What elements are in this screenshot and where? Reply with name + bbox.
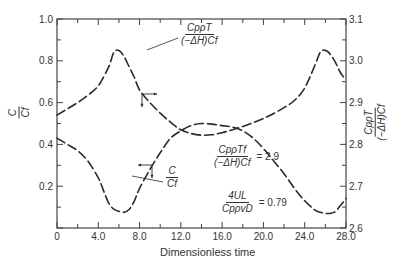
x-tick-label: 4.0 (91, 231, 105, 242)
y-left-tick-label: 0.4 (39, 139, 53, 150)
x-axis-label: Dimensionless time (160, 246, 255, 258)
y-left-tick-label: 0.2 (39, 181, 53, 192)
x-tick-label: 8.0 (133, 231, 147, 242)
arrow-down-icon-head (140, 104, 143, 107)
annotation-concentration-label: C Cf (165, 165, 179, 190)
equation-tf-value: = 2.9 (256, 151, 279, 162)
tick-labels: 04.08.012.016.020.024.028.00.20.40.60.81… (39, 14, 363, 243)
equation-ul-value: = 0.79 (259, 197, 287, 208)
y-right-tick-label: 2.8 (349, 139, 363, 150)
equation-ul-fraction: 4UL CpρvD (220, 190, 255, 215)
data-series (57, 38, 346, 214)
y-left-tick-label: 1.0 (39, 14, 53, 25)
y-left-tick-label: 0.8 (39, 55, 53, 66)
axis-indicator-arrows (138, 92, 157, 178)
y-right-tick-label: 2.6 (349, 223, 363, 234)
y-axis-right-label: CpρT (−ΔH)Cf (363, 102, 388, 142)
x-tick-label: 16.0 (212, 231, 232, 242)
y-right-tick-label: 2.7 (349, 181, 363, 192)
arrow-right-icon-head (154, 92, 157, 95)
parameter-equation-tf: CpρTf (−ΔH)Cf = 2.9 (212, 144, 279, 169)
temperature-leader-line (147, 38, 178, 50)
x-tick-label: 12.0 (171, 231, 191, 242)
x-tick-label: 20.0 (254, 231, 274, 242)
x-tick-label: 24.0 (295, 231, 315, 242)
annotation-temperature-label: CpρT (−ΔH)Cf (179, 22, 219, 47)
concentration-curve (57, 123, 346, 213)
y-axis-left-label: C Cf (7, 106, 32, 120)
x-tick-label: 0 (54, 231, 60, 242)
arrow-down-icon-head (150, 175, 153, 178)
y-right-tick-label: 2.9 (349, 97, 363, 108)
y-right-tick-label: 3.1 (349, 14, 363, 25)
y-left-tick-label: 0.6 (39, 97, 53, 108)
concentration-leader-line (132, 176, 163, 182)
temperature-curve (57, 50, 346, 135)
arrow-left-icon-head (138, 163, 141, 166)
parameter-equation-ul: 4UL CpρvD = 0.79 (220, 190, 287, 215)
equation-tf-fraction: CpρTf (−ΔH)Cf (212, 144, 252, 169)
y-right-tick-label: 3.0 (349, 55, 363, 66)
